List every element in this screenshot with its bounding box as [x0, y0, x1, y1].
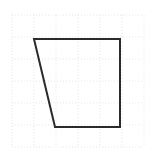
figure-svg [0, 0, 147, 156]
figure-canvas [0, 0, 147, 156]
quadrilateral-shape [34, 39, 120, 127]
